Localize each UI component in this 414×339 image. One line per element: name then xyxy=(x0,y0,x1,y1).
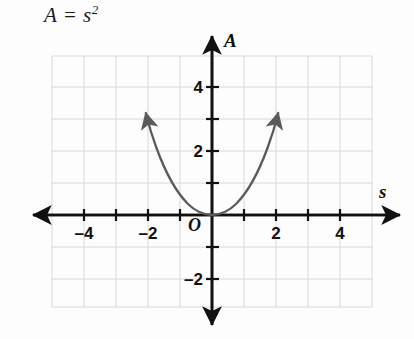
y-tick-label-2: 2 xyxy=(181,142,203,162)
y-tick-label-4: 4 xyxy=(181,78,203,98)
x-tick-label--2: –2 xyxy=(130,224,166,244)
origin-label: O xyxy=(188,215,201,236)
x-tick-label-4: 4 xyxy=(329,224,351,244)
x-tick-label--4: –4 xyxy=(66,224,102,244)
x-tick-label-2: 2 xyxy=(265,224,287,244)
coordinate-plane xyxy=(0,0,414,339)
equation-exponent: 2 xyxy=(92,2,99,17)
equation-base: A = s xyxy=(44,3,92,27)
parabola-left-branch xyxy=(146,113,212,215)
y-axis-label: A xyxy=(224,30,237,52)
parabola-right-branch xyxy=(212,113,278,215)
graph-figure: A = s2 xyxy=(0,0,414,339)
x-axis-label: s xyxy=(379,181,386,203)
y-tick-label--2: –2 xyxy=(167,270,203,290)
equation-title: A = s2 xyxy=(44,2,99,28)
